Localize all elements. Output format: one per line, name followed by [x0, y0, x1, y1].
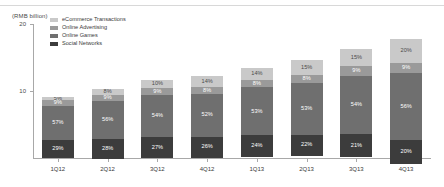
- bar-column[interactable]: 5%9%57%29%: [42, 97, 74, 158]
- bars-container: 5%9%57%29%8%9%56%28%10%9%54%27%14%8%52%2…: [33, 24, 431, 158]
- bar-segment-label: 14%: [251, 71, 262, 77]
- y-axis-tick-label: 20: [6, 21, 26, 27]
- bar-segment: 26%: [191, 137, 223, 158]
- x-axis-label: 1Q12: [36, 166, 80, 172]
- bar-segment-label: 53%: [251, 109, 262, 115]
- bar-column[interactable]: 14%8%52%26%: [191, 76, 223, 158]
- bar-segment-label: 56%: [102, 117, 113, 123]
- bar-segment-label: 9%: [104, 95, 112, 101]
- top-divider: [0, 5, 444, 6]
- bar-column[interactable]: 15%8%53%22%: [291, 60, 323, 158]
- bar-segment-label: 53%: [301, 106, 312, 112]
- bar-segment-label: 24%: [251, 143, 262, 149]
- bar-segment: 56%: [390, 73, 422, 140]
- x-axis-label: 4Q12: [185, 166, 229, 172]
- x-axis-label: 4Q13: [384, 166, 428, 172]
- bar-segment-label: 57%: [52, 120, 63, 126]
- x-axis-tick: [307, 159, 308, 162]
- bar-segment: 9%: [141, 88, 173, 95]
- bar-segment: 10%: [141, 80, 173, 88]
- bar-segment: 54%: [340, 76, 372, 135]
- bar-segment-label: 54%: [351, 102, 362, 108]
- bar-segment-label: 52%: [202, 112, 213, 118]
- bar-segment-label: 54%: [152, 113, 163, 119]
- bar-segment-label: 9%: [352, 68, 360, 74]
- bar-segment: 15%: [340, 49, 372, 65]
- bar-segment: 8%: [191, 87, 223, 94]
- x-axis-label: 2Q13: [285, 166, 329, 172]
- bar-segment-label: 8%: [253, 81, 261, 87]
- bar-segment: 20%: [390, 39, 422, 63]
- bar-segment-label: 15%: [301, 65, 312, 71]
- bar-segment: 57%: [42, 106, 74, 141]
- bar-column[interactable]: 10%9%54%27%: [141, 80, 173, 158]
- bar-segment-label: 27%: [152, 145, 163, 151]
- bar-segment-label: 9%: [153, 89, 161, 95]
- bar-segment: 14%: [191, 76, 223, 88]
- y-axis-unit-label: (RMB billion): [12, 13, 48, 19]
- bar-segment: 56%: [92, 101, 124, 140]
- bar-segment: 29%: [42, 140, 74, 158]
- bar-segment: 27%: [141, 137, 173, 158]
- bar-segment-label: 9%: [402, 65, 410, 71]
- bar-segment-label: 29%: [52, 146, 63, 152]
- bar-segment: 8%: [241, 80, 273, 87]
- bar-segment-label: 28%: [102, 146, 113, 152]
- bar-segment: 52%: [191, 94, 223, 137]
- bar-segment: 24%: [241, 135, 273, 157]
- bar-segment: 53%: [291, 83, 323, 135]
- bar-segment-label: 56%: [401, 104, 412, 110]
- bar-segment: 20%: [390, 140, 422, 164]
- bar-segment: 8%: [291, 75, 323, 83]
- x-axis-label: 3Q13: [334, 166, 378, 172]
- bar-segment-label: 26%: [202, 144, 213, 150]
- bar-segment: 22%: [291, 135, 323, 157]
- y-axis-tick-label: 10: [6, 88, 26, 94]
- bar-segment: 21%: [340, 134, 372, 157]
- bar-segment-label: 21%: [351, 143, 362, 149]
- legend-swatch-icon: [50, 18, 58, 22]
- bar-segment: 54%: [141, 95, 173, 137]
- x-axis-tick: [356, 159, 357, 162]
- bar-column[interactable]: 14%8%53%24%: [241, 68, 273, 158]
- x-axis-tick: [157, 159, 158, 162]
- legend-item: eCommerce Transactions: [50, 16, 126, 23]
- bar-segment-label: 20%: [401, 149, 412, 155]
- bar-segment: 14%: [241, 68, 273, 81]
- x-axis-tick: [257, 159, 258, 162]
- bar-segment: 53%: [241, 87, 273, 135]
- bar-segment-label: 8%: [303, 76, 311, 82]
- bar-segment-label: 22%: [301, 142, 312, 148]
- bar-column[interactable]: 8%9%56%28%: [92, 89, 124, 158]
- x-axis-label: 1Q13: [235, 166, 279, 172]
- bar-segment-label: 10%: [152, 81, 163, 87]
- x-axis-label: 3Q12: [135, 166, 179, 172]
- bar-column[interactable]: 15%9%54%21%: [340, 49, 372, 158]
- bar-segment-label: 20%: [401, 48, 412, 54]
- bar-segment-label: 8%: [203, 88, 211, 94]
- bar-segment: 9%: [390, 63, 422, 74]
- bar-segment: 28%: [92, 139, 124, 158]
- x-axis-tick: [207, 159, 208, 162]
- bar-segment: 9%: [340, 66, 372, 76]
- x-axis-tick: [108, 159, 109, 162]
- x-axis-label: 2Q12: [86, 166, 130, 172]
- bar-segment: 15%: [291, 60, 323, 75]
- bar-segment-label: 14%: [202, 79, 213, 85]
- x-axis-tick: [58, 159, 59, 162]
- legend-item-label: eCommerce Transactions: [62, 16, 126, 23]
- bar-segment-label: 15%: [351, 55, 362, 61]
- bar-column[interactable]: 20%9%56%20%: [390, 39, 422, 158]
- chart-screenshot: (RMB billion) 1020 eCommerce Transaction…: [0, 0, 444, 187]
